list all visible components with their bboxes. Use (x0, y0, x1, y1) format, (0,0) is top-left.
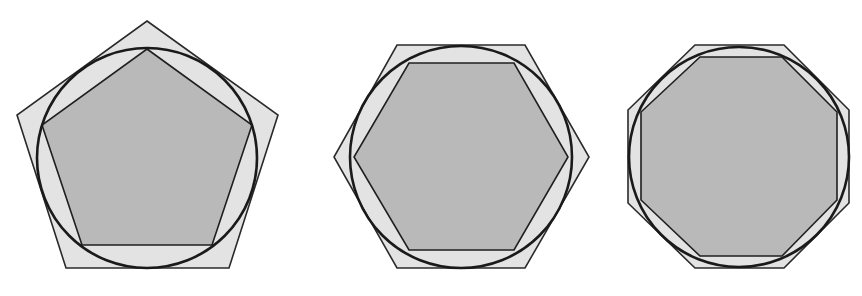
polygon-circle-diagram (0, 0, 862, 296)
inscribed-octagon (641, 57, 837, 256)
octagon-group (628, 45, 849, 268)
hexagon-group (334, 45, 589, 268)
pentagon-group (17, 21, 278, 268)
